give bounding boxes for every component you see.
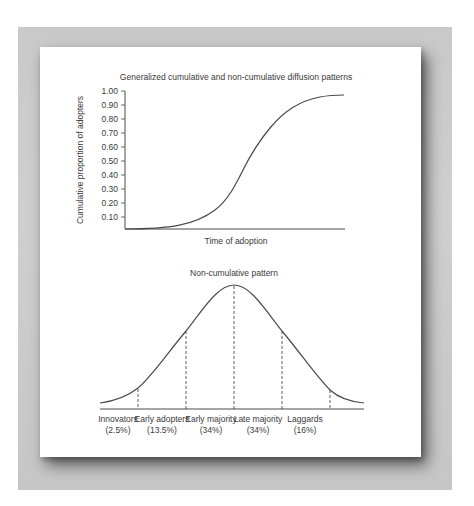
tick-label: 0.70: [101, 128, 118, 138]
segment-labels: Innovators (2.5%) Early adopters (13.5%)…: [98, 414, 323, 435]
segment-name: Laggards: [287, 414, 322, 424]
tick-label: 0.20: [101, 198, 118, 208]
tick-label: 0.10: [101, 212, 118, 222]
segment-name: Early adopters: [135, 414, 190, 424]
y-tick-labels: 1.00 0.90 0.80 0.70 0.60 0.50 0.40 0.30 …: [101, 86, 118, 222]
tick-label: 0.60: [101, 142, 118, 152]
bell-curve: [100, 285, 364, 403]
tick-label: 1.00: [101, 86, 118, 96]
y-ticks: [121, 91, 125, 217]
segment-name: Late majority: [234, 414, 283, 424]
tick-label: 0.80: [101, 114, 118, 124]
tick-label: 0.50: [101, 156, 118, 166]
segment-pct: (13.5%): [147, 425, 177, 435]
diffusion-figure: Generalized cumulative and non-cumulativ…: [0, 0, 474, 506]
segment-name: Early majority: [185, 414, 237, 424]
chart-title: Non-cumulative pattern: [190, 268, 278, 278]
segment-pct: (34%): [247, 425, 270, 435]
cumulative-s-curve: [125, 95, 344, 229]
segment-name: Innovators: [98, 414, 138, 424]
segment-pct: (16%): [294, 425, 317, 435]
segment-pct: (34%): [200, 425, 223, 435]
segment-pct: (2.5%): [105, 425, 130, 435]
tick-label: 0.40: [101, 170, 118, 180]
cumulative-chart: Generalized cumulative and non-cumulativ…: [75, 72, 352, 246]
chart-title: Generalized cumulative and non-cumulativ…: [120, 72, 352, 82]
x-axis-title: Time of adoption: [205, 236, 268, 246]
segment-boundaries: [138, 286, 330, 409]
tick-label: 0.90: [101, 100, 118, 110]
y-axis-title: Cumulative proportion of adopters: [75, 96, 85, 224]
tick-label: 0.30: [101, 184, 118, 194]
non-cumulative-chart: Non-cumulative pattern Innovators (2.5%)…: [98, 268, 364, 435]
